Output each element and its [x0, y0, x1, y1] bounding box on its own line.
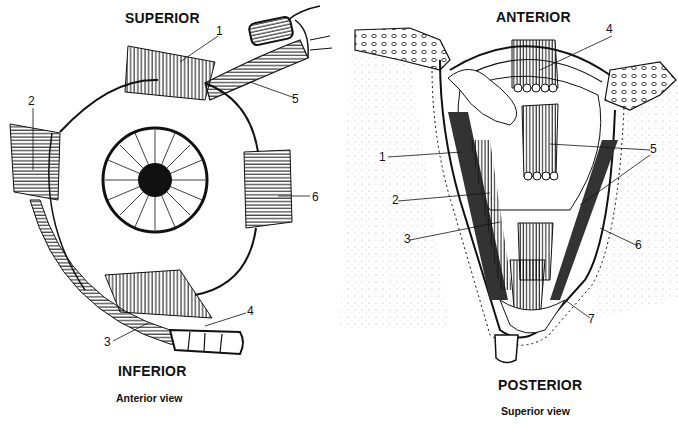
- anterior-view-panel: SUPERIOR INFERIOR Anterior view 1 2 3 4 …: [0, 0, 340, 429]
- callout-7: 7: [588, 312, 595, 326]
- callout-6: 6: [635, 238, 642, 252]
- anterior-view-caption: Anterior view: [116, 392, 183, 404]
- superior-label: SUPERIOR: [125, 10, 200, 26]
- callout-2: 2: [392, 193, 399, 207]
- superior-view-panel: ANTERIOR POSTERIOR Superior view 1 2 3 4…: [340, 0, 678, 429]
- orbit-superior-illustration: [340, 0, 678, 429]
- callout-3: 3: [104, 335, 111, 349]
- callout-1: 1: [216, 24, 223, 38]
- callout-4: 4: [247, 304, 254, 318]
- anterior-label: ANTERIOR: [496, 9, 571, 25]
- posterior-label: POSTERIOR: [498, 377, 582, 393]
- inferior-label: INFERIOR: [118, 363, 187, 379]
- callout-1: 1: [379, 150, 386, 164]
- callout-5: 5: [650, 142, 657, 156]
- callout-4: 4: [606, 22, 613, 36]
- callout-6: 6: [312, 190, 319, 204]
- callout-5: 5: [292, 92, 299, 106]
- callout-2: 2: [28, 94, 35, 108]
- superior-view-caption: Superior view: [501, 405, 570, 417]
- callout-3: 3: [404, 232, 411, 246]
